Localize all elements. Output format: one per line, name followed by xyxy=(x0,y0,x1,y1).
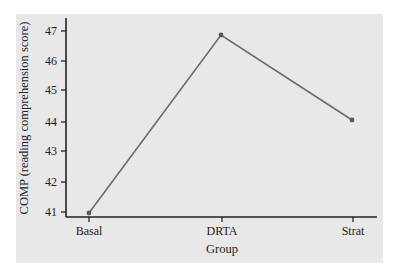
data-point-drta xyxy=(219,33,224,38)
y-tick-label: 43 xyxy=(45,144,57,158)
y-tick-label: 44 xyxy=(45,115,57,129)
y-tick-labels: 41 42 43 44 45 46 47 xyxy=(45,24,57,219)
x-tick-label-drta: DRTA xyxy=(207,224,238,238)
x-tick-labels: Basal DRTA Strat xyxy=(76,224,365,238)
data-point-basal xyxy=(87,211,92,216)
x-tick-label-strat: Strat xyxy=(342,224,365,238)
y-tick-label: 46 xyxy=(45,54,57,68)
y-tick-label: 47 xyxy=(45,24,57,38)
x-tick-label-basal: Basal xyxy=(76,224,103,238)
y-tick-label: 41 xyxy=(45,205,57,219)
y-tick-label: 42 xyxy=(45,175,57,189)
data-line xyxy=(89,35,352,213)
y-axis-title: COMP (reading comprehension score) xyxy=(17,22,31,215)
x-axis-title: Group xyxy=(206,242,238,256)
data-point-strat xyxy=(350,118,355,123)
line-chart: 41 42 43 44 45 46 47 Basal DRTA Strat Gr… xyxy=(0,0,401,276)
y-tick-label: 45 xyxy=(45,83,57,97)
